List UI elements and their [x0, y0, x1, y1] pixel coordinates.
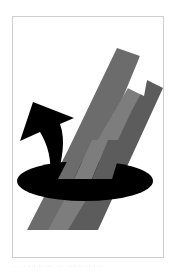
- figure-illustration: [0, 0, 179, 274]
- figure-caption: . . . :.:.:. .:. .:. .:.:.:. .:.:.:.: [14, 263, 164, 269]
